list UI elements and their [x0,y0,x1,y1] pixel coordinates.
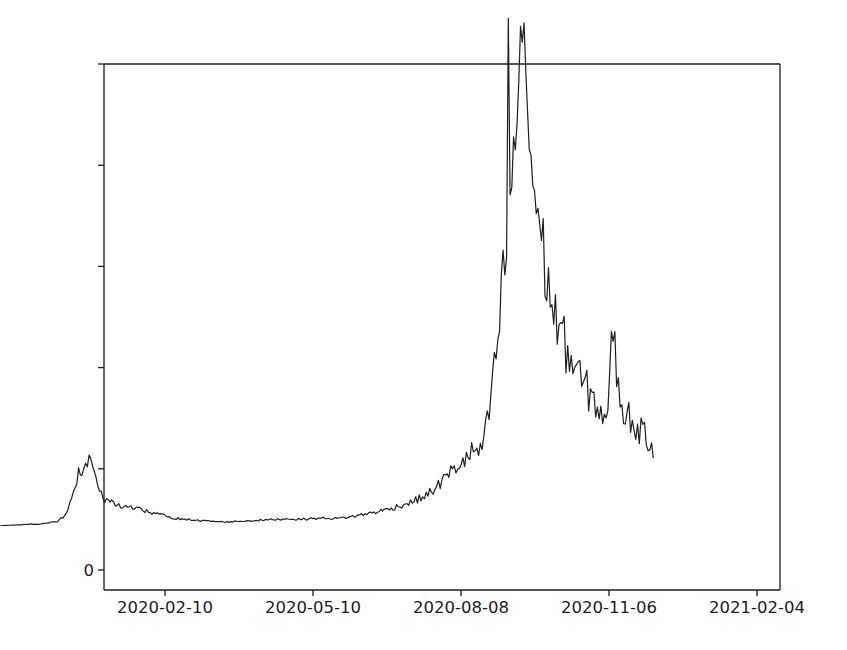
chart-figure: Daily Increase of Confirmed cases 0 2000… [0,0,847,650]
axes-frame [0,0,847,650]
